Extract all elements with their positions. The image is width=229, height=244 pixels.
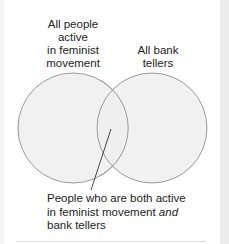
label-text: in feminist movement [47,206,159,218]
label-line: All bank [120,44,196,57]
bank-tellers-label: All bank tellers [120,44,196,70]
bottom-rule [16,241,206,242]
label-emphasis: and [159,206,178,218]
bank-tellers-circle [97,73,207,183]
label-line: All people [26,18,120,31]
label-line: active [26,31,120,44]
label-line: People who are both active [47,192,222,206]
label-line: bank tellers [47,219,222,233]
label-line: tellers [120,57,196,70]
feminist-movement-label: All people active in feminist movement [26,18,120,70]
label-line: movement [26,57,120,70]
label-line: in feminist [26,44,120,57]
intersection-label: People who are both active in feminist m… [47,192,222,233]
label-line: in feminist movement and [47,206,222,220]
